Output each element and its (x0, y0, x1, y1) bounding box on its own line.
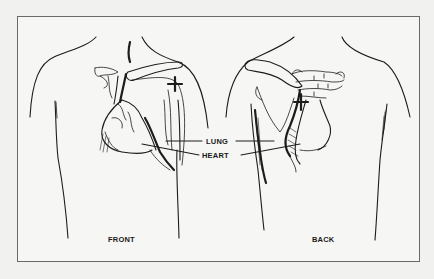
back-spine (292, 70, 344, 150)
back-torso-outline (226, 37, 410, 240)
front-view-label: FRONT (108, 236, 135, 244)
back-scapula (245, 60, 302, 132)
lung-label: LUNG (206, 138, 228, 146)
front-heart (100, 74, 174, 170)
back-view-label: BACK (312, 236, 334, 244)
heart-label: HEART (202, 152, 229, 160)
